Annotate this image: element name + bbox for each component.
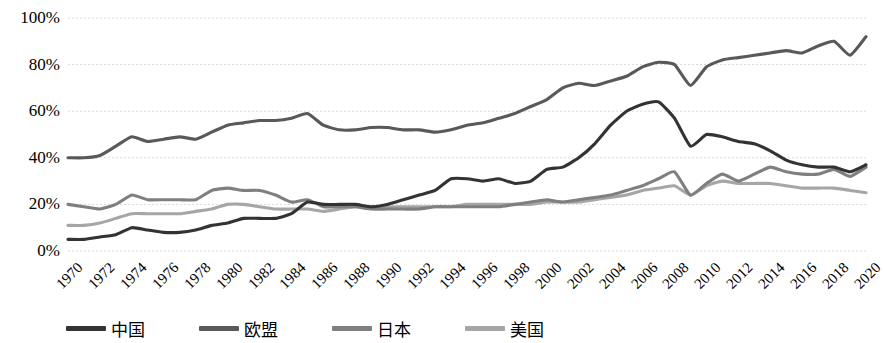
legend-label: 中国 [111, 316, 145, 341]
legend-swatch-icon [199, 326, 239, 331]
y-tick-label: 100% [0, 9, 60, 26]
series-line-0 [68, 102, 866, 240]
y-tick-label: 40% [0, 149, 60, 166]
series-line-2 [68, 167, 866, 209]
chart-legend: 中国欧盟日本美国 [0, 314, 876, 343]
y-tick-label: 20% [0, 195, 60, 212]
y-tick-label: 60% [0, 102, 60, 119]
legend-item-1[interactable]: 欧盟 [199, 316, 278, 341]
legend-item-2[interactable]: 日本 [332, 316, 411, 341]
y-tick-label: 0% [0, 242, 60, 259]
legend-swatch-icon [465, 326, 505, 331]
legend-item-0[interactable]: 中国 [66, 316, 145, 341]
legend-item-3[interactable]: 美国 [465, 316, 544, 341]
legend-label: 日本 [377, 316, 411, 341]
y-tick-label: 80% [0, 56, 60, 73]
legend-swatch-icon [332, 326, 372, 331]
series-line-1 [68, 37, 866, 158]
series-line-3 [68, 181, 866, 225]
legend-label: 美国 [510, 316, 544, 341]
legend-swatch-icon [66, 326, 106, 331]
legend-label: 欧盟 [244, 316, 278, 341]
